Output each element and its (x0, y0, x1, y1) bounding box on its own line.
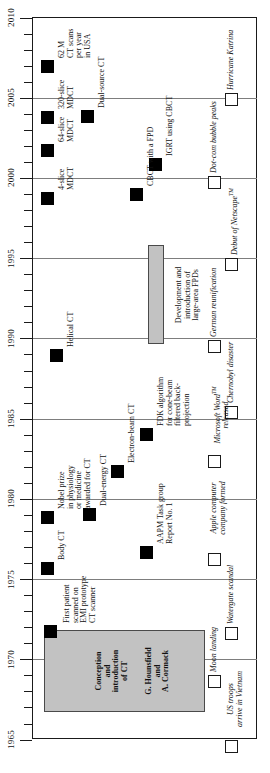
label-hurricane-katrina: Hurricane Katrina (227, 10, 236, 90)
marker-helical-ct[interactable] (50, 349, 63, 362)
label-netscape-tm: TM (228, 188, 234, 196)
axis-tick-1993 (24, 290, 32, 291)
label-first-patient-emi: First patient scanned on EMI prototype C… (63, 559, 97, 623)
label-german-reunification: German reunification (210, 241, 219, 337)
axis-tick-2004 (24, 114, 32, 115)
axis-year-label-1980: 1980 (7, 488, 16, 510)
axis-tick-2008 (24, 50, 32, 51)
axis-tick-1994 (24, 274, 32, 275)
marker-dotcom-bubble[interactable] (208, 176, 221, 189)
marker-nobel-prize[interactable] (41, 511, 54, 524)
axis-tick-1968 (24, 691, 32, 692)
label-64-slice-mdct: 64-slice MDCT (58, 94, 75, 142)
axis-tick-1987 (24, 387, 32, 388)
band-conception-label-line1: Conception and introduction of CT (95, 634, 129, 708)
axis-tick-2003 (24, 130, 32, 131)
axis-tick-1988 (24, 371, 32, 372)
label-dual-source-ct: Dual-source CT (98, 36, 107, 108)
marker-us-troops-vietnam[interactable] (225, 740, 238, 753)
label-helical-ct: Helical CT (67, 283, 76, 347)
label-us-troops-vietnam: US troops arrive in Vietnam (227, 661, 244, 737)
marker-apple-computer-formed[interactable] (208, 553, 221, 566)
marker-4-slice-mdct[interactable] (41, 192, 54, 205)
axis-tick-1981 (24, 483, 32, 484)
axis-year-label-1965: 1965 (7, 729, 16, 751)
axis-tick-1991 (24, 322, 32, 323)
marker-moon-landing[interactable] (208, 675, 221, 688)
marker-fdk-algorithm[interactable] (140, 428, 153, 441)
axis-tick-1985 (20, 419, 32, 420)
marker-320-slice-mdct[interactable] (41, 111, 54, 124)
axis-tick-1998 (24, 210, 32, 211)
axis-tick-1980 (20, 499, 32, 500)
axis-tick-1978 (24, 531, 32, 532)
axis-tick-1996 (24, 242, 32, 243)
marker-cbct-with-fpd[interactable] (130, 188, 143, 201)
label-microsoft-word-released: Microsoft WordTM released (210, 378, 231, 452)
axis-tick-1979 (24, 515, 32, 516)
marker-electron-beam-ct[interactable] (111, 465, 124, 478)
axis-tick-1974 (24, 595, 32, 596)
axis-tick-1999 (24, 194, 32, 195)
label-msword-tm: TM (211, 386, 217, 394)
axis-tick-1973 (24, 611, 32, 612)
marker-62m-ct-scans[interactable] (41, 60, 54, 73)
marker-dual-energy-ct[interactable] (83, 508, 96, 521)
label-4-slice-mdct: 4-slice MDCT (58, 144, 75, 190)
axis-tick-1983 (24, 451, 32, 452)
axis-tick-2010 (20, 18, 32, 19)
label-cbct-with-fpd: CBCT with a FPD (147, 106, 156, 186)
marker-body-ct[interactable] (41, 562, 54, 575)
axis-tick-1972 (24, 627, 32, 628)
axis-tick-2009 (24, 34, 32, 35)
marker-german-reunification[interactable] (208, 340, 221, 353)
label-electron-beam-ct: Electron-beam CT (128, 385, 137, 463)
label-apple-computer-formed: Apple computer company formed (210, 466, 227, 550)
axis-tick-1969 (24, 675, 32, 676)
label-debut-of-netscape: Debut of NetscapeTM (227, 165, 239, 255)
label-aapm-report: AAPM Task group Report No. 1 (157, 464, 174, 544)
axis-tick-1986 (24, 403, 32, 404)
axis-year-label-2005: 2005 (7, 87, 16, 109)
axis-tick-1989 (24, 354, 32, 355)
label-62m-ct-scans: 62 M CT scans per year in USA (58, 0, 92, 58)
axis-tick-1995 (20, 258, 32, 259)
axis-year-label-1990: 1990 (7, 327, 16, 349)
axis-tick-1992 (24, 306, 32, 307)
axis-tick-2007 (24, 66, 32, 67)
axis-tick-1997 (24, 226, 32, 227)
band-conception-label-line2: G. Hounsfield and A. Cormack (145, 634, 171, 708)
axis-tick-1984 (24, 435, 32, 436)
axis-tick-2002 (24, 146, 32, 147)
ct-history-timeline-figure: 1965197019751980198519901995200020052010… (0, 0, 270, 773)
marker-hurricane-katrina[interactable] (225, 93, 238, 106)
marker-aapm-report[interactable] (140, 546, 153, 559)
marker-first-patient-emi[interactable] (44, 625, 57, 638)
axis-year-label-1970: 1970 (7, 648, 16, 670)
marker-watergate-scandal[interactable] (225, 627, 238, 640)
axis-tick-2001 (24, 162, 32, 163)
band-fpd-development (148, 245, 164, 344)
axis-tick-1971 (24, 643, 32, 644)
axis-tick-1967 (24, 707, 32, 708)
label-igrt-using-cbct: IGRT using CBCT (166, 76, 175, 156)
marker-dual-source-ct[interactable] (81, 110, 94, 123)
label-watergate-scandal: Watergate scandal (227, 544, 236, 624)
axis-tick-1977 (24, 547, 32, 548)
label-netscape-text: Debut of Netscape (230, 196, 239, 255)
axis-year-label-2000: 2000 (7, 167, 16, 189)
axis-tick-1976 (24, 563, 32, 564)
label-fdk-algorithm: FDK algorithm for cone-beam filtered bac… (157, 354, 191, 426)
axis-tick-1990 (20, 338, 32, 339)
marker-debut-of-netscape[interactable] (225, 258, 238, 271)
band-fpd-label: Development and introduction of large-ar… (175, 245, 201, 345)
axis-tick-1966 (24, 724, 32, 725)
axis-year-label-1975: 1975 (7, 568, 16, 590)
label-moon-landing: Moon landing (210, 606, 219, 672)
marker-64-slice-mdct[interactable] (41, 144, 54, 157)
axis-tick-1975 (20, 579, 32, 580)
axis-year-label-2010: 2010 (7, 7, 16, 29)
year-axis-line (32, 17, 33, 739)
axis-tick-2000 (20, 178, 32, 179)
axis-tick-2005 (20, 98, 32, 99)
